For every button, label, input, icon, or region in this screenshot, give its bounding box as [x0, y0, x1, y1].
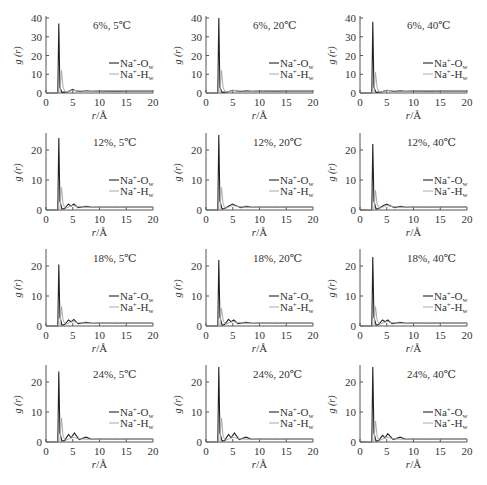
x-axis-label: r/Å: [406, 458, 421, 470]
x-tick-label: 10: [94, 213, 106, 225]
x-axis-label: r/Å: [252, 458, 267, 470]
y-axis-label: g (r): [326, 279, 338, 298]
x-tick-label: 20: [462, 329, 474, 341]
y-tick-label: 10: [345, 68, 357, 80]
x-tick-label: 20: [148, 329, 160, 341]
y-axis-label: g (r): [172, 163, 184, 182]
x-tick-label: 15: [435, 213, 447, 225]
rdf-panel: 010200510152024%, 20℃Na+-OwNa+-Hwg (r)r/…: [172, 365, 319, 470]
y-tick-label: 0: [37, 320, 43, 332]
y-tick-label: 0: [197, 320, 203, 332]
x-tick-label: 20: [148, 213, 160, 225]
panel-title: 24%, 40℃: [407, 368, 456, 380]
panel-title: 6%, 40℃: [407, 19, 450, 31]
y-tick-label: 20: [345, 144, 357, 156]
y-tick-label: 20: [191, 376, 203, 388]
y-tick-label: 0: [351, 320, 357, 332]
y-axis-label: g (r): [326, 46, 338, 65]
x-tick-label: 20: [308, 329, 320, 341]
x-tick-label: 10: [94, 445, 106, 457]
x-tick-label: 20: [148, 96, 160, 108]
rdf-panel: 010203040051015206%, 5℃Na+-OwNa+-Hwg (r)…: [12, 12, 159, 121]
y-axis-label: g (r): [172, 395, 184, 414]
panel-title: 6%, 20℃: [253, 19, 296, 31]
x-tick-label: 10: [254, 329, 266, 341]
rdf-panel: 010200510152012%, 5℃Na+-OwNa+-Hwg (r)r/Å: [12, 133, 159, 238]
x-tick-label: 15: [121, 213, 133, 225]
x-tick-label: 20: [462, 96, 474, 108]
x-tick-label: 15: [435, 96, 447, 108]
rdf-panel: 010200510152012%, 40℃Na+-OwNa+-Hwg (r)r/…: [326, 133, 473, 238]
rdf-panel: 010200510152018%, 40℃Na+-OwNa+-Hwg (r)r/…: [326, 249, 473, 354]
x-tick-label: 5: [384, 96, 390, 108]
y-tick-label: 10: [191, 174, 203, 186]
x-tick-label: 10: [408, 445, 420, 457]
y-tick-label: 0: [351, 436, 357, 448]
x-tick-label: 15: [281, 213, 293, 225]
y-tick-label: 30: [345, 31, 357, 43]
x-tick-label: 20: [148, 445, 160, 457]
rdf-panel: 010200510152018%, 20℃Na+-OwNa+-Hwg (r)r/…: [172, 249, 319, 354]
x-tick-label: 10: [254, 445, 266, 457]
x-tick-label: 0: [43, 329, 49, 341]
x-tick-label: 15: [121, 329, 133, 341]
x-axis-label: r/Å: [92, 342, 107, 354]
panel-title: 12%, 40℃: [407, 136, 456, 148]
y-tick-label: 20: [191, 260, 203, 272]
y-tick-label: 10: [191, 68, 203, 80]
x-axis-label: r/Å: [92, 226, 107, 238]
y-tick-label: 20: [345, 260, 357, 272]
x-tick-label: 5: [70, 96, 76, 108]
y-axis-label: g (r): [326, 395, 338, 414]
x-tick-label: 10: [408, 329, 420, 341]
y-tick-label: 0: [351, 87, 357, 99]
y-axis-label: g (r): [172, 46, 184, 65]
y-tick-label: 0: [197, 436, 203, 448]
x-tick-label: 0: [43, 96, 49, 108]
x-tick-label: 0: [357, 329, 363, 341]
panel-title: 18%, 40℃: [407, 252, 456, 264]
x-tick-label: 0: [203, 329, 209, 341]
y-axis-label: g (r): [12, 279, 24, 298]
rdf-panel: 010200510152024%, 40℃Na+-OwNa+-Hwg (r)r/…: [326, 365, 473, 470]
y-axis-label: g (r): [12, 395, 24, 414]
y-tick-label: 10: [345, 290, 357, 302]
x-axis-label: r/Å: [252, 226, 267, 238]
rdf-panel: 010203040051015206%, 20℃Na+-OwNa+-Hwg (r…: [172, 12, 319, 121]
y-tick-label: 0: [37, 204, 43, 216]
y-tick-label: 10: [31, 290, 43, 302]
x-tick-label: 5: [70, 445, 76, 457]
x-tick-label: 20: [308, 445, 320, 457]
x-tick-label: 15: [281, 329, 293, 341]
x-axis-label: r/Å: [252, 109, 267, 121]
y-tick-label: 0: [351, 204, 357, 216]
x-tick-label: 0: [357, 213, 363, 225]
x-tick-label: 5: [230, 329, 236, 341]
y-tick-label: 40: [31, 12, 43, 24]
x-tick-label: 0: [43, 213, 49, 225]
x-tick-label: 5: [230, 445, 236, 457]
x-axis-label: r/Å: [92, 109, 107, 121]
rdf-panel: 010200510152024%, 5℃Na+-OwNa+-Hwg (r)r/Å: [12, 365, 159, 470]
x-tick-label: 0: [357, 445, 363, 457]
y-tick-label: 0: [37, 436, 43, 448]
x-tick-label: 5: [230, 96, 236, 108]
y-tick-label: 20: [191, 144, 203, 156]
y-tick-label: 30: [191, 31, 203, 43]
x-tick-label: 5: [70, 213, 76, 225]
x-axis-label: r/Å: [92, 458, 107, 470]
x-tick-label: 0: [203, 213, 209, 225]
y-tick-label: 40: [345, 12, 357, 24]
y-tick-label: 20: [31, 260, 43, 272]
y-tick-label: 20: [345, 50, 357, 62]
y-tick-label: 0: [197, 204, 203, 216]
x-tick-label: 10: [254, 213, 266, 225]
x-tick-label: 5: [384, 445, 390, 457]
x-axis-label: r/Å: [406, 342, 421, 354]
y-tick-label: 10: [31, 174, 43, 186]
x-tick-label: 15: [121, 96, 133, 108]
figure-canvas: 010203040051015206%, 5℃Na+-OwNa+-Hwg (r)…: [0, 0, 487, 485]
y-tick-label: 10: [31, 68, 43, 80]
y-axis-label: g (r): [12, 46, 24, 65]
x-axis-label: r/Å: [406, 226, 421, 238]
